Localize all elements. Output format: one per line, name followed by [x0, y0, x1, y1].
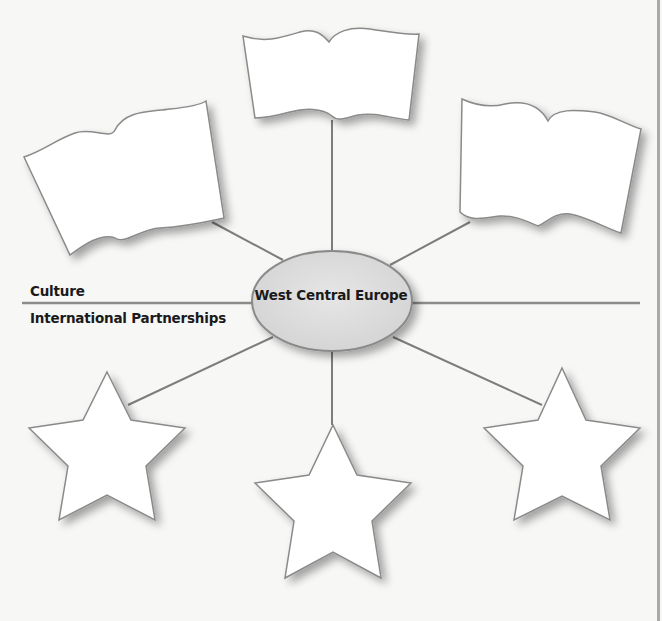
flag-top-left[interactable]: [24, 101, 224, 255]
center-node-label: West Central Europe: [250, 287, 412, 303]
culture-label: Culture: [30, 283, 85, 299]
star-bottom-left[interactable]: [29, 372, 185, 520]
star-bottom-right[interactable]: [484, 368, 640, 520]
flag-top-right[interactable]: [460, 99, 641, 233]
star-bottom-center[interactable]: [255, 425, 411, 578]
flag-top-center[interactable]: [243, 28, 419, 120]
international-partnerships-label: International Partnerships: [30, 310, 226, 326]
